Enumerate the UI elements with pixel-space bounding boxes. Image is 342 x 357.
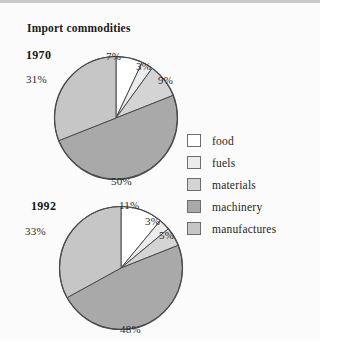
pie-label-1992-fuels: 3%: [145, 215, 160, 227]
legend-item-machinery: machinery: [187, 197, 276, 216]
pie-svg-1992: [58, 205, 184, 331]
legend-item-manufactures: manufactures: [187, 219, 276, 238]
pie-label-1970-fuels: 3%: [136, 60, 151, 72]
legend-swatch-materials-icon: [187, 178, 201, 191]
legend-item-food: food: [187, 131, 276, 150]
pie-label-1970-machinery: 50%: [111, 175, 132, 187]
legend-item-materials: materials: [187, 175, 276, 194]
legend-label-fuels: fuels: [212, 157, 235, 169]
pie-chart-1992: [58, 205, 184, 331]
pie-label-1970-food: 7%: [106, 50, 121, 62]
legend-label-machinery: machinery: [212, 201, 262, 213]
legend-swatch-manufactures-icon: [187, 222, 201, 235]
legend-label-food: food: [212, 135, 234, 147]
legend-swatch-food-icon: [187, 134, 201, 147]
page-title: Import commodities: [27, 22, 131, 34]
legend-item-fuels: fuels: [187, 153, 276, 172]
legend-swatch-machinery-icon: [187, 200, 201, 213]
pie-label-1992-manufactures: 33%: [25, 225, 46, 237]
pie-label-1992-machinery: 48%: [120, 323, 141, 335]
pie-label-1970-materials: 9%: [158, 74, 173, 86]
pie-label-1992-food: 11%: [119, 199, 139, 211]
chart-year-label-1992: 1992: [31, 199, 56, 214]
legend-label-manufactures: manufactures: [212, 223, 276, 235]
chart-legend: food fuels materials machinery manufactu…: [187, 131, 276, 241]
legend-label-materials: materials: [212, 179, 256, 191]
chart-year-label-1970: 1970: [26, 48, 51, 63]
legend-swatch-fuels-icon: [187, 156, 201, 169]
pie-label-1992-materials: 5%: [159, 229, 174, 241]
pie-label-1970-manufactures: 31%: [26, 73, 47, 85]
pie-slices-1992: [60, 207, 183, 330]
chart-panel: Import commodities 1970 7% 3% 9% 50% 31%…: [0, 0, 320, 340]
